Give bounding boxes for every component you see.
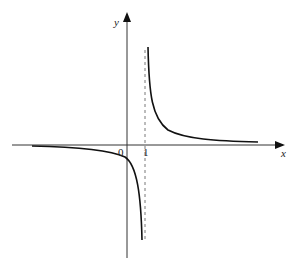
tick-label-one: 1 [143,146,149,158]
function-graph [0,0,300,269]
right-branch-curve [148,47,258,142]
y-axis-label: y [114,16,119,28]
left-branch-curve [32,146,142,240]
origin-label: 0 [118,146,124,158]
x-axis-label: x [281,147,286,159]
